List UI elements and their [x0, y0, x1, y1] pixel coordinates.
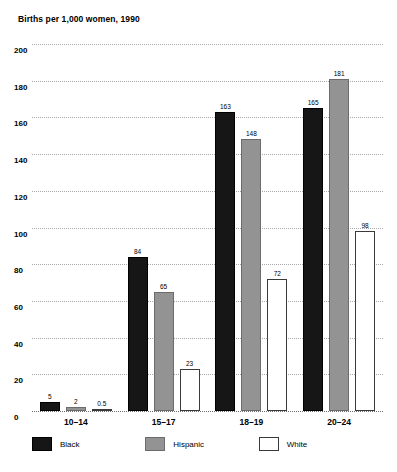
bar-rect[interactable] — [355, 231, 375, 411]
bar-black-10-14[interactable]: 5 — [40, 44, 60, 411]
bar-white-18-19[interactable]: 72 — [267, 44, 287, 411]
legend-item-hispanic[interactable]: Hispanic — [145, 437, 258, 451]
bar-black-20-24[interactable]: 165 — [303, 44, 323, 411]
bar-rect[interactable] — [40, 402, 60, 411]
bar-value-label: 2 — [74, 399, 78, 406]
bars-row: 520.5 — [32, 44, 120, 411]
bar-hispanic-18-19[interactable]: 148 — [241, 44, 261, 411]
y-tick-label-40: 40 — [14, 339, 23, 348]
legend-item-white[interactable]: White — [259, 437, 372, 451]
y-tick-label-120: 120 — [14, 192, 27, 201]
bar-chart: Births per 1,000 women, 1990 520.5846523… — [0, 0, 397, 472]
bar-hispanic-15-17[interactable]: 65 — [154, 44, 174, 411]
legend-label: White — [287, 440, 307, 449]
legend-item-black[interactable]: Black — [32, 437, 145, 451]
bar-hispanic-20-24[interactable]: 181 — [329, 44, 349, 411]
bar-value-label: 181 — [334, 71, 345, 78]
bar-black-15-17[interactable]: 84 — [128, 44, 148, 411]
bar-rect[interactable] — [154, 292, 174, 411]
legend-swatch-black — [32, 437, 52, 451]
bar-rect[interactable] — [66, 407, 86, 411]
legend-swatch-hispanic — [145, 437, 165, 451]
bars-row: 846523 — [120, 44, 208, 411]
legend-label: Black — [60, 440, 80, 449]
bar-value-label: 0.5 — [97, 401, 106, 408]
x-tick-label-18-19: 18–19 — [240, 417, 264, 427]
y-tick-label-0: 0 — [14, 413, 18, 422]
bar-value-label: 5 — [48, 394, 52, 401]
bar-hispanic-10-14[interactable]: 2 — [66, 44, 86, 411]
bars-row: 16314872 — [208, 44, 296, 411]
bar-value-label: 148 — [246, 131, 257, 138]
x-tick-label-15-17: 15–17 — [152, 417, 176, 427]
y-tick-label-80: 80 — [14, 266, 23, 275]
bar-value-label: 65 — [160, 284, 167, 291]
x-tick-label-20-24: 20–24 — [327, 417, 351, 427]
chart-title: Births per 1,000 women, 1990 — [18, 14, 140, 24]
y-tick-label-100: 100 — [14, 229, 27, 238]
y-tick-label-60: 60 — [14, 302, 23, 311]
legend-label: Hispanic — [173, 440, 204, 449]
bar-rect[interactable] — [303, 108, 323, 411]
bar-group-10-14: 520.5 — [32, 44, 120, 411]
y-tick-label-160: 160 — [14, 119, 27, 128]
bar-value-label: 84 — [134, 249, 141, 256]
bar-value-label: 163 — [220, 104, 231, 111]
bar-rect[interactable] — [180, 369, 200, 411]
x-tick-label-10-14: 10–14 — [64, 417, 88, 427]
y-tick-label-200: 200 — [14, 46, 27, 55]
bar-value-label: 23 — [186, 361, 193, 368]
y-tick-label-20: 20 — [14, 376, 23, 385]
bar-rect[interactable] — [241, 139, 261, 411]
bar-rect[interactable] — [92, 409, 112, 411]
bar-rect[interactable] — [128, 257, 148, 411]
bar-value-label: 98 — [362, 223, 369, 230]
bar-rect[interactable] — [329, 79, 349, 411]
bar-rect[interactable] — [267, 279, 287, 411]
bar-group-15-17: 846523 — [120, 44, 208, 411]
bar-group-18-19: 16314872 — [208, 44, 296, 411]
y-tick-label-140: 140 — [14, 156, 27, 165]
y-tick-label-180: 180 — [14, 82, 27, 91]
bar-black-18-19[interactable]: 163 — [215, 44, 235, 411]
chart-legend: BlackHispanicWhite — [32, 437, 372, 451]
bar-group-20-24: 16518198 — [295, 44, 383, 411]
bar-white-15-17[interactable]: 23 — [180, 44, 200, 411]
bar-rect[interactable] — [215, 112, 235, 411]
axis-baseline — [32, 411, 383, 412]
bar-white-20-24[interactable]: 98 — [355, 44, 375, 411]
bar-value-label: 72 — [274, 271, 281, 278]
legend-swatch-white — [259, 437, 279, 451]
plot-area: 520.58465231631487216518198 — [32, 44, 383, 411]
bars-row: 16518198 — [295, 44, 383, 411]
bar-white-10-14[interactable]: 0.5 — [92, 44, 112, 411]
bar-value-label: 165 — [308, 100, 319, 107]
